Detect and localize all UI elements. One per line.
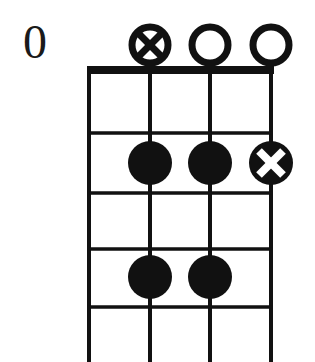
dot-fret4-string3 <box>188 255 232 299</box>
fretboard <box>0 0 315 362</box>
strings <box>89 68 271 362</box>
dot-fret2-string4-with-x <box>249 141 293 185</box>
chord-diagram: 0 <box>0 0 315 362</box>
fret-lines <box>89 133 272 307</box>
open-string-markers <box>132 27 289 63</box>
nut-bar <box>87 66 274 74</box>
marker-open-circle-string-4 <box>253 27 289 63</box>
marker-circle-x-string-2 <box>132 27 168 63</box>
dot-fret2-string3 <box>188 141 232 185</box>
dot-fret4-string2 <box>128 255 172 299</box>
dot-fret2-string2 <box>128 141 172 185</box>
marker-open-circle-string-3 <box>192 27 228 63</box>
